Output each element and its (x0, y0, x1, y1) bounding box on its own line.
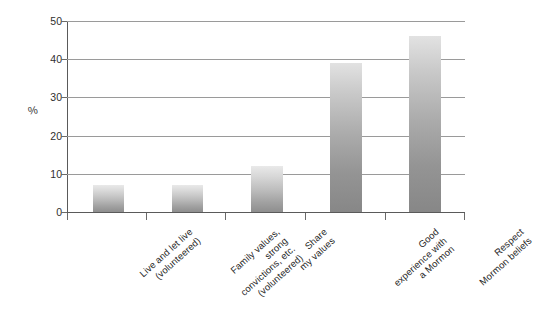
x-axis-label-respect-mormon-beliefs: Respect Mormon beliefs (469, 226, 534, 287)
y-tick-label-30: 30 (36, 91, 62, 103)
bar-family-values (172, 185, 203, 212)
gridline-40 (67, 59, 465, 60)
gridline-20 (67, 136, 465, 137)
x-axis-label-good-experience: Good experience with a Mormon (383, 226, 456, 297)
y-tick-label-0: 0 (36, 206, 62, 218)
y-tick-label-40: 40 (36, 53, 62, 65)
x-tick-1 (146, 213, 147, 220)
x-tick-5 (464, 213, 465, 220)
y-tick-label-10: 10 (36, 168, 62, 180)
plot-area (67, 21, 465, 212)
bar-respect-mormon-beliefs (409, 36, 441, 212)
x-tick-2 (225, 213, 226, 220)
gridline-50 (67, 21, 465, 22)
y-tick-label-20: 20 (36, 130, 62, 142)
x-tick-3 (305, 213, 306, 220)
y-axis-title: % (15, 102, 50, 119)
x-tick-4 (385, 213, 386, 220)
bar-live-and-let-live (93, 185, 124, 212)
x-axis-label-family-values: Family values, strong convictions, etc. … (223, 226, 305, 307)
x-axis-label-live-and-let-live: Live and let live (volunteered) (137, 226, 202, 288)
gridline-30 (67, 97, 465, 98)
bar-share-my-values (251, 166, 283, 212)
y-tick-label-50: 50 (36, 15, 62, 27)
x-axis-line (67, 212, 465, 213)
x-tick-0 (67, 213, 68, 220)
bar-good-experience-with-a-mormon (330, 63, 362, 212)
